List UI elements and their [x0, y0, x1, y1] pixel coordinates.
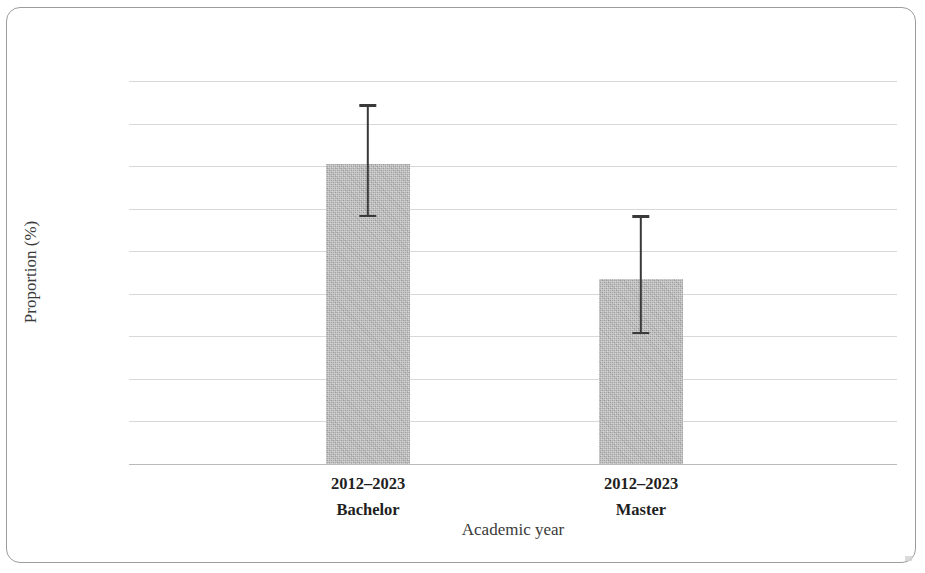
gridline — [129, 166, 897, 167]
gridline — [129, 124, 897, 125]
gridline — [129, 421, 897, 422]
error-bar-cap-bottom — [359, 215, 376, 218]
x-axis-category-label: 2012–2023Bachelor — [253, 471, 483, 522]
x-axis-category-label: 2012–2023Master — [526, 471, 756, 522]
category-year: 2012–2023 — [253, 471, 483, 497]
x-axis-title: Academic year — [129, 520, 897, 540]
gridline — [129, 464, 897, 465]
figure-frame: 31.23130.830.630.430.23029.829.629.4 201… — [6, 7, 916, 563]
error-bar — [367, 104, 369, 217]
error-bar-cap-top — [359, 104, 376, 107]
gridline — [129, 336, 897, 337]
y-axis-title: Proportion (%) — [21, 221, 41, 323]
plot-area: 31.23130.830.630.430.23029.829.629.4 201… — [129, 81, 897, 464]
gridline — [129, 209, 897, 210]
gridline — [129, 251, 897, 252]
gridline — [129, 81, 897, 82]
error-bar-cap-top — [632, 215, 649, 218]
category-degree: Master — [526, 497, 756, 523]
gridline — [129, 379, 897, 380]
category-degree: Bachelor — [253, 497, 483, 523]
error-bar — [640, 215, 642, 334]
gridline — [129, 294, 897, 295]
error-bar-cap-bottom — [632, 332, 649, 335]
scan-artifact — [905, 556, 912, 561]
category-year: 2012–2023 — [526, 471, 756, 497]
